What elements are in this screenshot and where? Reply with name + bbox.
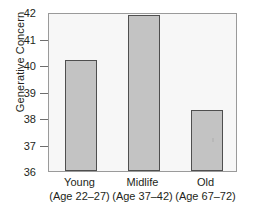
x-axis-label-age-range: (Age 67–72) — [161, 189, 251, 203]
x-axis-label-name: Old — [161, 175, 251, 189]
y-axis-tick-label: 37 — [0, 140, 36, 151]
bar — [191, 110, 223, 171]
chart-figure: Generative Concern 36373839404142 Young(… — [0, 0, 253, 217]
y-axis-tick-label: 38 — [0, 114, 36, 125]
plot-area — [48, 13, 237, 172]
y-axis-tick-label: 39 — [0, 87, 36, 98]
y-axis-tick-label: 36 — [0, 167, 36, 178]
y-axis-tick-label: 42 — [0, 8, 36, 19]
x-axis-label: Old(Age 67–72) — [161, 175, 251, 203]
y-axis-tick-label: 41 — [0, 34, 36, 45]
y-axis-tick-label: 40 — [0, 61, 36, 72]
bar — [65, 60, 97, 171]
bar — [128, 15, 160, 171]
speck-artifact — [212, 138, 214, 142]
